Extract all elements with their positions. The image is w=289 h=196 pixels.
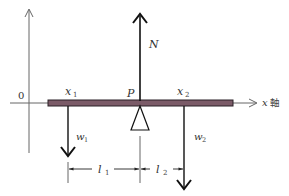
x1-label: x 1 (65, 85, 77, 99)
x-axis-label: x 軸 (262, 97, 280, 108)
lever-diagram: 0 x 軸 N P x 1 x 2 w 1 w 2 (0, 0, 289, 196)
pivot-label: P (126, 87, 135, 100)
normal-force-arrow (133, 14, 147, 101)
normal-force-label: N (148, 38, 159, 51)
svg-text:l: l (98, 163, 102, 176)
w2-force-arrow (177, 106, 191, 189)
svg-text:2: 2 (185, 91, 189, 99)
svg-text:1: 1 (105, 169, 109, 177)
svg-text:x: x (177, 85, 184, 98)
svg-text:軸: 軸 (270, 97, 280, 108)
svg-text:l: l (156, 163, 160, 176)
y-axis (25, 9, 33, 153)
fulcrum-triangle-icon (131, 106, 149, 130)
svg-text:x: x (262, 97, 268, 108)
x2-label: x 2 (177, 85, 189, 99)
svg-text:2: 2 (202, 136, 206, 144)
origin-label: 0 (18, 90, 24, 101)
svg-text:1: 1 (73, 91, 77, 99)
w2-label: w 2 (194, 131, 206, 144)
l2-label: l 2 (156, 163, 167, 177)
w1-label: w 1 (76, 131, 88, 144)
svg-text:1: 1 (84, 136, 88, 144)
l1-label: l 1 (98, 163, 109, 177)
svg-text:x: x (65, 85, 72, 98)
svg-text:2: 2 (163, 169, 167, 177)
w1-force-arrow (61, 106, 75, 156)
